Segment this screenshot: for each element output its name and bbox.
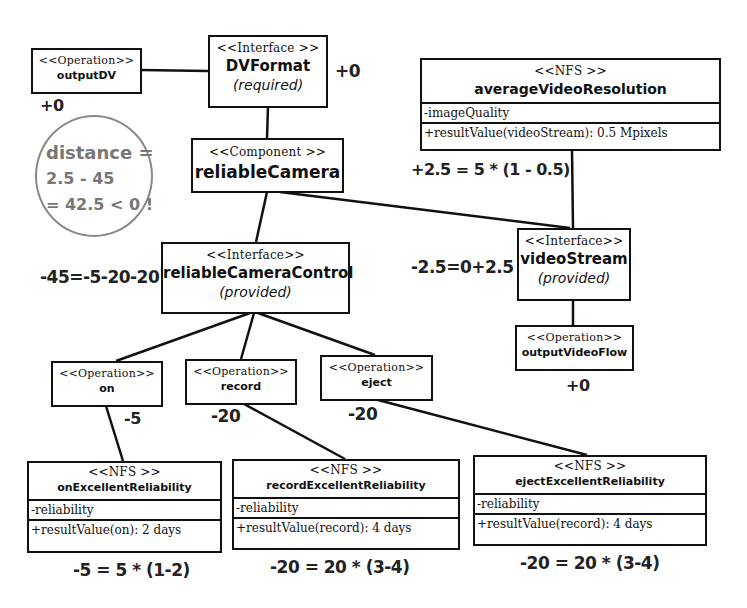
node-name: eject: [322, 375, 431, 391]
node-name: recordExcellentReliability: [234, 478, 458, 494]
operation-outputVideoFlow[interactable]: <<Operation>> outputVideoFlow: [515, 325, 634, 371]
node-name: record: [187, 379, 295, 395]
stereotype: <<NFS >>: [234, 463, 458, 478]
stereotype: <<Operation>>: [517, 331, 632, 345]
score-ejectExcellentReliability: -20 = 20 * (3-4): [520, 553, 659, 573]
link-control-record: [241, 313, 254, 359]
node-name: averageVideoResolution: [422, 79, 719, 99]
stereotype: <<Interface>>: [519, 234, 629, 249]
link-control-on: [116, 313, 250, 361]
link-reliableCamera-control: [256, 192, 267, 242]
link-outputDV-dvFormat: [141, 70, 208, 71]
operation-record[interactable]: <<Operation>> record: [185, 359, 297, 405]
nfs-attribute: -reliability: [475, 495, 705, 513]
operation-eject[interactable]: <<Operation>> eject: [320, 355, 433, 401]
node-name: DVFormat: [210, 56, 326, 76]
distance-line-1: distance =: [46, 140, 154, 166]
link-control-eject: [258, 313, 375, 355]
stereotype: <<Interface>>: [163, 248, 348, 263]
score-recordExcellentReliability: -20 = 20 * (3-4): [270, 557, 409, 577]
nfs-header: <<NFS >> averageVideoResolution: [422, 60, 719, 104]
link-reliableCamera-videoStream: [280, 192, 570, 228]
score-on: -5: [124, 409, 141, 428]
nfs-operation: +resultValue(videoStream): 0.5 Mpixels: [422, 122, 719, 142]
nfs-operation: +resultValue(on): 2 days: [29, 519, 220, 539]
node-name: reliableCamera: [193, 160, 342, 184]
interface-dvFormat[interactable]: <<Interface >> DVFormat (required): [208, 35, 328, 108]
stereotype: <<NFS >>: [29, 465, 220, 480]
score-onExcellentReliability: -5 = 5 * (1-2): [73, 560, 190, 580]
interface-reliableCameraControl[interactable]: <<Interface>> reliableCameraControl (pro…: [161, 242, 350, 314]
stereotype: <<NFS >>: [422, 64, 719, 79]
nfs-attribute: -reliability: [234, 499, 458, 517]
node-name: videoStream: [519, 249, 629, 269]
link-on-nfs: [106, 406, 123, 461]
component-reliableCamera[interactable]: <<Component >> reliableCamera: [191, 138, 344, 193]
score-outputDV: +0: [40, 96, 64, 115]
stereotype: <<Operation>>: [187, 365, 295, 379]
distance-line-3: = 42.5 < 0 !: [46, 192, 154, 218]
nfs-recordExcellentReliability[interactable]: <<NFS >> recordExcellentReliability -rel…: [232, 459, 460, 550]
nfs-header: <<NFS >> onExcellentReliability: [29, 463, 220, 501]
nfs-header: <<NFS >> ejectExcellentReliability: [475, 457, 705, 495]
distance-line-2: 2.5 - 45: [46, 166, 154, 192]
score-outputVideoFlow: +0: [566, 376, 590, 395]
operation-outputDV[interactable]: <<Operation>> outputDV: [31, 48, 142, 94]
stereotype: <<Operation>>: [322, 361, 431, 375]
interface-videoStream[interactable]: <<Interface>> videoStream (provided): [517, 228, 631, 301]
nfs-ejectExcellentReliability[interactable]: <<NFS >> ejectExcellentReliability -reli…: [473, 455, 707, 546]
nfs-operation: +resultValue(record): 4 days: [234, 517, 458, 537]
node-name: outputDV: [33, 68, 140, 84]
nfs-attribute: -reliability: [29, 501, 220, 519]
node-name: outputVideoFlow: [517, 345, 632, 361]
link-record-nfs: [244, 404, 345, 459]
link-dvFormat-reliableCamera: [267, 107, 268, 138]
score-dvFormat: +0: [335, 61, 360, 81]
qualifier: (provided): [519, 269, 629, 287]
stereotype: <<NFS >>: [475, 459, 705, 474]
link-nfs-videoStream: [572, 150, 573, 228]
nfs-averageVideoResolution[interactable]: <<NFS >> averageVideoResolution -imageQu…: [420, 58, 721, 151]
score-videoStream: -2.5=0+2.5: [411, 257, 514, 277]
node-name: on: [53, 381, 161, 397]
score-record: -20: [211, 406, 240, 426]
node-name: reliableCameraControl: [163, 263, 348, 283]
score-reliableCameraControl: -45=-5-20-20: [40, 267, 159, 287]
node-name: onExcellentReliability: [29, 480, 220, 496]
stereotype: <<Component >>: [193, 145, 342, 160]
qualifier: (provided): [163, 283, 348, 301]
stereotype: <<Operation>>: [53, 367, 161, 381]
nfs-attribute: -imageQuality: [422, 104, 719, 122]
link-eject-nfs: [378, 400, 587, 455]
nfs-onExcellentReliability[interactable]: <<NFS >> onExcellentReliability -reliabi…: [27, 461, 222, 553]
node-name: ejectExcellentReliability: [475, 474, 705, 490]
nfs-operation: +resultValue(record): 4 days: [475, 513, 705, 533]
stereotype: <<Interface >>: [210, 41, 326, 56]
stereotype: <<Operation>>: [33, 54, 140, 68]
distance-note: distance = 2.5 - 45 = 42.5 < 0 !: [46, 140, 154, 218]
operation-on[interactable]: <<Operation>> on: [51, 361, 163, 407]
qualifier: (required): [210, 76, 326, 94]
nfs-header: <<NFS >> recordExcellentReliability: [234, 461, 458, 499]
score-eject: -20: [348, 404, 377, 424]
score-averageVideoResolution: +2.5 = 5 * (1 - 0.5): [411, 160, 570, 179]
